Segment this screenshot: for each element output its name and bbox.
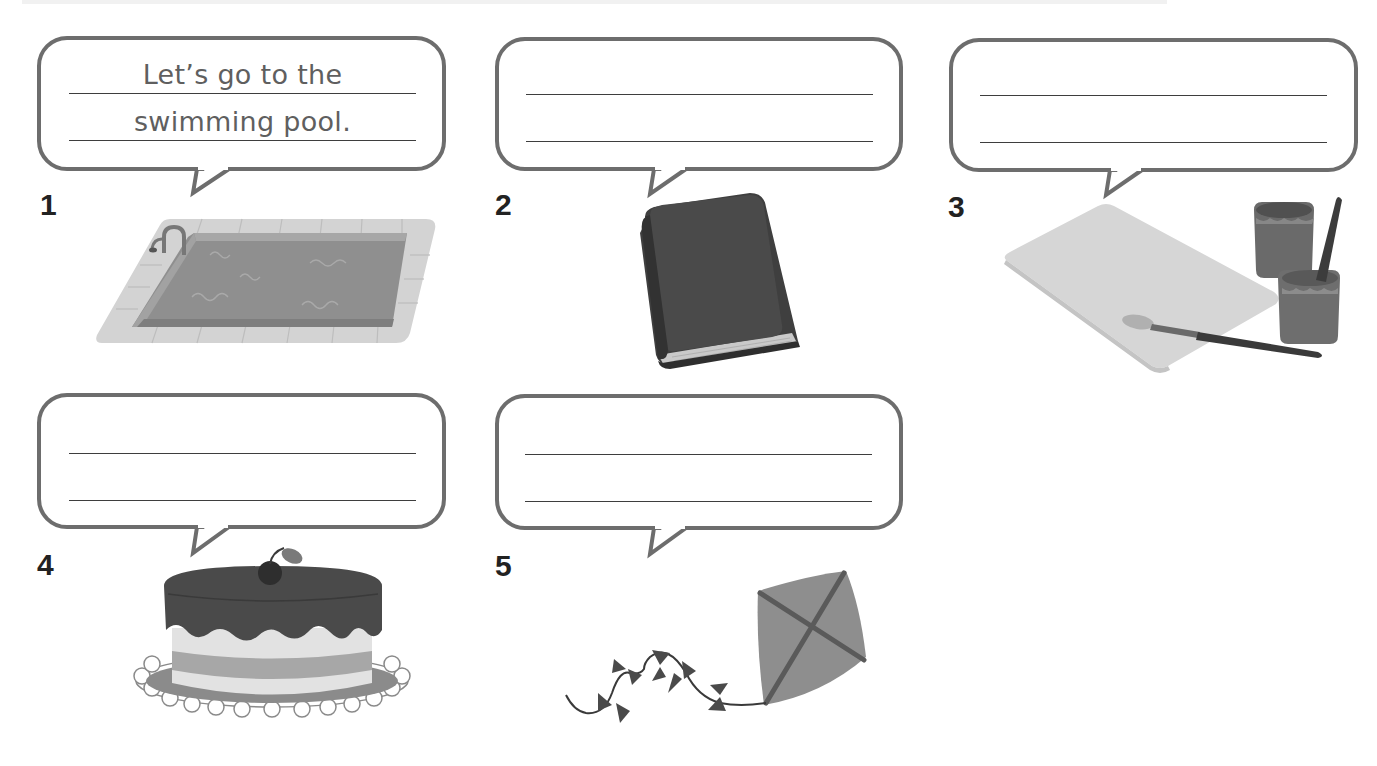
speech-bubble-5: [495, 394, 903, 530]
answer-line-4b[interactable]: [69, 500, 416, 501]
answer-line-2a[interactable]: [526, 94, 873, 95]
exercise-number-3: 3: [948, 192, 965, 222]
answer-line-5b[interactable]: [525, 501, 872, 502]
speech-bubble-4: [37, 393, 446, 529]
answer-line-5a[interactable]: [525, 454, 872, 455]
answer-line-2b[interactable]: [526, 141, 873, 142]
exercise-number-2: 2: [495, 190, 512, 220]
speech-bubble-tail-5: [642, 525, 702, 557]
speech-bubble-1: [37, 36, 446, 171]
speech-bubble-2: [495, 37, 903, 171]
answer-text-1a: Let’s go to the: [69, 60, 416, 90]
exercise-number-5: 5: [495, 551, 512, 581]
answer-line-4a[interactable]: [69, 453, 416, 454]
answer-line-3a[interactable]: [980, 95, 1327, 96]
book-picture: [632, 193, 812, 373]
swimming-pool-picture: [92, 215, 442, 350]
answer-text-1b: swimming pool.: [69, 107, 416, 137]
answer-line-1a[interactable]: [69, 93, 416, 94]
top-edge-rule: [22, 0, 1167, 4]
exercise-number-1: 1: [40, 190, 57, 220]
kite-picture: [560, 565, 880, 740]
speech-bubble-3: [949, 38, 1358, 172]
cake-picture: [132, 548, 412, 708]
answer-line-1b[interactable]: [69, 140, 416, 141]
speech-bubble-tail-1: [185, 166, 245, 198]
paper-and-paints-picture: [1000, 192, 1340, 377]
exercise-number-4: 4: [37, 550, 54, 580]
answer-line-3b[interactable]: [980, 142, 1327, 143]
